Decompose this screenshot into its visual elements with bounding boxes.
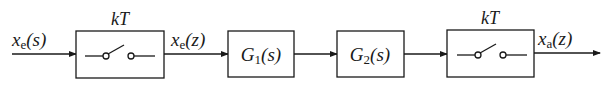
- sampler-block-1: kT: [76, 9, 164, 78]
- output-signal-label: xa(z): [537, 28, 572, 51]
- g1-block: G1(s): [228, 31, 294, 77]
- block-diagram: xe(s) kT xe(z) G1(s) G2(s) kT: [0, 0, 603, 88]
- sampler-block-2: kT: [447, 8, 534, 77]
- sampler-2-period-label: kT: [481, 8, 501, 28]
- sampler-1-period-label: kT: [111, 9, 131, 29]
- sampler-1-box: [76, 31, 164, 78]
- g1-label: G1(s): [241, 44, 281, 67]
- input-signal-label: xe(s): [11, 29, 46, 52]
- intermediate-signal-label: xe(z): [170, 29, 205, 52]
- g2-label: G2(s): [350, 44, 390, 67]
- sampler-2-box: [447, 30, 534, 77]
- g2-block: G2(s): [337, 31, 404, 77]
